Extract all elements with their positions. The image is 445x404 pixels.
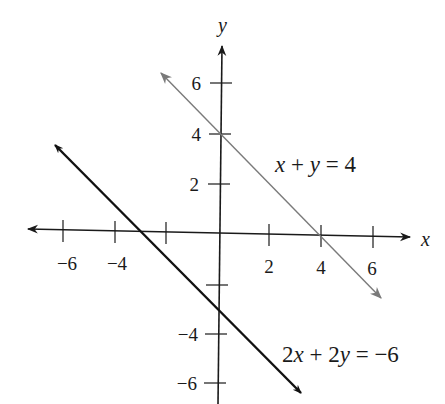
x-axis-label: x <box>420 228 430 250</box>
eq1-x: x <box>274 152 286 177</box>
equation-label-2: 2x + 2y = −6 <box>282 342 399 367</box>
equation-label-1: x + y = 4 <box>274 152 356 177</box>
y-axis: 6 4 2 −4 −6 y <box>177 14 232 404</box>
eq1-y: y <box>308 152 321 177</box>
y-tick-label-2: 2 <box>190 174 200 195</box>
coordinate-plane: −6 −4 2 4 6 x 6 4 2 −4 −6 y x + y = 4 2x… <box>0 0 445 404</box>
eq2-coef: 2 <box>282 342 294 367</box>
x-tick-label-neg4: −4 <box>107 253 128 274</box>
x-tick-label-neg6: −6 <box>57 253 77 274</box>
x-tick-label-6: 6 <box>367 258 377 279</box>
eq2-plus: + 2 <box>304 342 340 367</box>
eq2-y: y <box>338 342 351 367</box>
eq1-rhs: = 4 <box>320 152 356 177</box>
eq1-plus: + <box>285 152 309 177</box>
eq2-rhs: = −6 <box>350 342 399 367</box>
eq2-x: x <box>293 342 305 367</box>
y-tick-label-6: 6 <box>192 73 202 94</box>
y-tick-label-neg4: −4 <box>178 324 199 345</box>
x-tick-label-2: 2 <box>264 256 274 277</box>
y-axis-label: y <box>216 14 227 37</box>
y-tick-label-neg6: −6 <box>177 373 197 394</box>
x-tick-label-4: 4 <box>316 257 326 278</box>
y-tick-label-4: 4 <box>192 124 202 145</box>
x-axis: −6 −4 2 4 6 x <box>28 220 430 279</box>
